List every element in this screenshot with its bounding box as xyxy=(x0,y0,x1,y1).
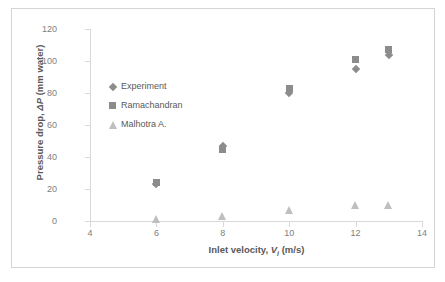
y-axis-title-symbol: P xyxy=(34,98,45,104)
y-axis-title-pre: Pressure drop, xyxy=(34,111,45,181)
legend-entry: Malhotra A. xyxy=(108,115,228,134)
chart-legend: ExperimentRamachandranMalhotra A. xyxy=(108,77,228,134)
data-point-triangle xyxy=(285,206,293,214)
x-axis-tick-label: 6 xyxy=(141,228,171,238)
y-axis-title-post: (mm water) xyxy=(34,45,45,98)
x-axis-tick-label: 12 xyxy=(341,228,371,238)
legend-entry: Experiment xyxy=(108,77,228,96)
data-point-square xyxy=(352,56,359,63)
legend-label: Experiment xyxy=(121,81,167,91)
data-point-square xyxy=(286,85,293,92)
legend-entry: Ramachandran xyxy=(108,96,228,115)
x-axis-tick xyxy=(356,222,357,227)
x-axis-tick-label: 10 xyxy=(274,228,304,238)
chart-screenshot: 020406080100120 468101214 Pressure drop,… xyxy=(0,0,445,282)
x-axis-tick xyxy=(289,222,290,227)
x-axis-title-post: (m/s) xyxy=(279,244,304,255)
diamond-marker-icon xyxy=(108,81,118,92)
legend-label: Malhotra A. xyxy=(121,119,167,129)
x-axis-line xyxy=(90,221,423,222)
data-point-triangle xyxy=(152,215,160,223)
x-axis-tick-label: 8 xyxy=(208,228,238,238)
y-axis-tick-label: 0 xyxy=(17,216,57,226)
legend-label: Ramachandran xyxy=(121,100,183,110)
y-axis-title: Pressure drop, ΔP (mm water) xyxy=(34,8,45,218)
triangle-marker-icon xyxy=(108,119,118,130)
data-point-triangle xyxy=(384,201,392,209)
x-axis-tick xyxy=(422,222,423,227)
data-point-square xyxy=(219,146,226,153)
x-axis-tick xyxy=(90,222,91,227)
data-point-diamond xyxy=(351,65,359,73)
x-axis-title-pre: Inlet velocity, xyxy=(209,244,271,255)
x-axis-tick-label: 14 xyxy=(407,228,437,238)
data-point-triangle xyxy=(218,212,226,220)
data-point-square xyxy=(385,46,392,53)
chart-frame: 020406080100120 468101214 Pressure drop,… xyxy=(11,8,435,268)
data-point-triangle xyxy=(351,201,359,209)
y-axis-title-delta: Δ xyxy=(34,104,45,110)
x-axis-title: Inlet velocity, Vi (m/s) xyxy=(90,244,423,257)
data-point-square xyxy=(153,179,160,186)
x-axis-tick-label: 4 xyxy=(75,228,105,238)
square-marker-icon xyxy=(108,100,118,111)
x-axis-tick xyxy=(223,222,224,227)
